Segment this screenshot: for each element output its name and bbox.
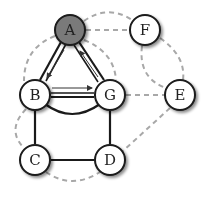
dashed-edge-F-E-left (142, 46, 167, 88)
nodes: A F B G E C D (20, 15, 195, 175)
dashed-edge-C-D-arc (46, 172, 100, 181)
node-label-A: A (64, 21, 76, 39)
node-B[interactable]: B (20, 80, 50, 110)
node-label-E: E (175, 86, 186, 104)
dashed-edge-B-C-arc (15, 109, 26, 148)
node-label-G: G (104, 86, 116, 104)
node-D[interactable]: D (95, 145, 125, 175)
node-E[interactable]: E (165, 80, 195, 110)
node-G[interactable]: G (95, 80, 125, 110)
dashed-edge-F-E-right (160, 38, 183, 80)
solid-edge-A-G-outer (79, 42, 104, 80)
node-label-C: C (29, 151, 40, 169)
arrow-G-to-A (80, 51, 98, 77)
dashed-edge-E-D (123, 108, 170, 151)
dashed-edge-A-F-arc (84, 12, 132, 21)
node-C[interactable]: C (20, 145, 50, 175)
node-F[interactable]: F (130, 15, 160, 45)
graph-diagram: A F B G E C D (0, 0, 210, 200)
node-A[interactable]: A (55, 15, 85, 45)
node-label-D: D (104, 151, 116, 169)
solid-edge-B-G-curve (45, 104, 100, 114)
node-label-F: F (140, 21, 150, 39)
node-label-B: B (29, 86, 40, 104)
